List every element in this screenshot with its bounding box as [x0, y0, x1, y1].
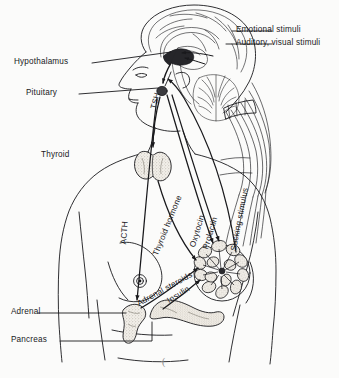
leader-hypothalamus [92, 52, 171, 63]
label-pancreas: Pancreas [11, 336, 47, 344]
label-pituitary: Pituitary [26, 89, 57, 97]
label-hypothalamus: Hypothalamus [14, 58, 68, 66]
adrenal-gland [122, 304, 145, 343]
thyroid-gland [135, 151, 172, 180]
hair [220, 83, 271, 246]
label-acth: ACTH [120, 221, 130, 244]
leader-pituitary [79, 88, 158, 94]
page-artifact-mark: ( [162, 356, 165, 367]
label-auditory-visual-stimuli: Auditory, visual stimuli [236, 39, 320, 47]
arrow-acth [137, 98, 157, 300]
figure-canvas: Hypothalamus Pituitary Thyroid Adrenal P… [0, 0, 339, 378]
label-thyroid: Thyroid [41, 151, 69, 159]
pancreas [150, 300, 224, 326]
label-adrenal: Adrenal [11, 308, 40, 316]
label-emotional-stimuli: Emotional stimuli [236, 26, 301, 34]
